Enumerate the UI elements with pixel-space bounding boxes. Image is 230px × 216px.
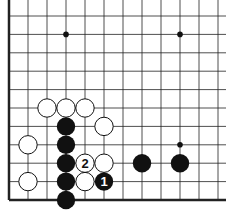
black-stone-icon bbox=[57, 154, 75, 172]
black-stone-icon bbox=[171, 154, 189, 172]
move-number-label: 2 bbox=[81, 156, 88, 171]
white-stone-icon bbox=[76, 172, 94, 190]
move-number-label: 1 bbox=[100, 174, 107, 189]
black-stone-icon bbox=[57, 172, 75, 190]
white-stone-icon bbox=[19, 172, 37, 190]
star-point-icon bbox=[177, 32, 183, 38]
white-stone-icon bbox=[76, 99, 94, 117]
star-point-icon bbox=[63, 32, 69, 38]
white-stone-icon bbox=[57, 99, 75, 117]
star-point-icon bbox=[177, 142, 183, 148]
go-board: 21 bbox=[0, 0, 230, 216]
black-stone-icon bbox=[133, 154, 151, 172]
white-stone-icon bbox=[19, 136, 37, 154]
black-stone-icon bbox=[57, 117, 75, 135]
black-stone-icon bbox=[57, 136, 75, 154]
black-stone-icon bbox=[57, 191, 75, 209]
white-stone-icon bbox=[95, 154, 113, 172]
white-stone-icon bbox=[38, 99, 56, 117]
white-stone-icon bbox=[95, 117, 113, 135]
